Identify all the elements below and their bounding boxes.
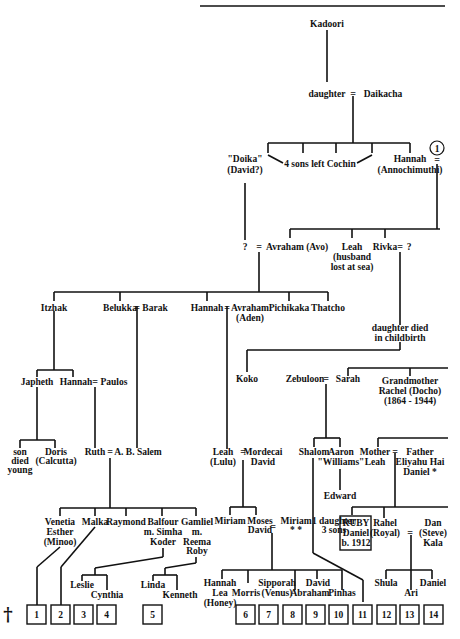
- svg-text:(Honey): (Honey): [204, 598, 237, 609]
- person-avraham-aden: Avraham: [231, 303, 269, 313]
- svg-text:2: 2: [58, 610, 63, 620]
- person-barak: Barak: [142, 303, 168, 313]
- person-kenneth: Kenneth: [163, 590, 199, 600]
- svg-text:lost at sea): lost at sea): [331, 262, 374, 273]
- svg-text:7: 7: [266, 610, 271, 620]
- person-doika-alias: (David?): [227, 165, 262, 176]
- four-sons-label: 4 sons left Cochin: [284, 159, 356, 169]
- svg-text:young: young: [8, 465, 33, 475]
- person-avraham-avo: Avraham (Avo): [266, 242, 328, 253]
- gen6: Venetia Esther (Minoo) Malka Raymond Bal…: [44, 516, 447, 556]
- person-hannah: Hannah: [191, 303, 224, 313]
- svg-text:=: =: [107, 446, 113, 457]
- marker-number: 1: [435, 144, 440, 154]
- svg-text:Lea: Lea: [212, 588, 228, 598]
- svg-text:(Calcutta): (Calcutta): [35, 456, 76, 467]
- svg-text:(Lulu): (Lulu): [210, 457, 236, 468]
- svg-text:=: =: [434, 154, 440, 165]
- svg-text:David: David: [251, 457, 276, 467]
- svg-text:=: =: [397, 241, 403, 252]
- person-dan-steve: Dan: [425, 518, 443, 528]
- person-raymond: Raymond: [106, 517, 146, 527]
- person-grandmother-rachel: Grandmother: [382, 376, 439, 386]
- svg-text:(Aden): (Aden): [236, 313, 264, 324]
- person-balfour: Balfour: [147, 517, 179, 527]
- svg-text:9: 9: [313, 610, 318, 620]
- person-daniel: Daniel: [420, 578, 447, 588]
- person-morris: Morris: [232, 588, 261, 598]
- svg-text:=: =: [407, 527, 413, 538]
- svg-text:12: 12: [382, 610, 392, 620]
- person-mother-leah: Mother: [360, 447, 391, 457]
- person-paulos: Paulos: [101, 377, 128, 387]
- person-venetia: Venetia: [45, 517, 76, 527]
- svg-text:(Minoo): (Minoo): [44, 537, 77, 548]
- svg-text:Daniel: Daniel: [343, 528, 370, 538]
- svg-text:in childbirth: in childbirth: [375, 333, 427, 343]
- gen4: Itzhak Belukka = Barak Hannah = Avraham …: [41, 302, 441, 407]
- person-malka: Malka: [82, 517, 109, 527]
- person-mordecai-david: Mordecai: [243, 447, 282, 457]
- svg-text:11: 11: [358, 610, 367, 620]
- svg-text:* *: * *: [290, 525, 302, 535]
- person-shula: Shula: [374, 578, 397, 588]
- person-leslie: Leslie: [70, 580, 94, 590]
- svg-text:m.: m.: [192, 527, 202, 537]
- svg-text:m. Simha: m. Simha: [144, 527, 183, 537]
- person-ruby-daniel: RUBY: [343, 518, 370, 528]
- svg-text:1: 1: [34, 610, 39, 620]
- svg-text:(1864 - 1944): (1864 - 1944): [384, 396, 436, 407]
- person-pinhas: Pinhas: [328, 588, 356, 598]
- svg-text:13: 13: [405, 610, 415, 620]
- person-ruth: Ruth: [85, 447, 106, 457]
- svg-text:8: 8: [290, 610, 295, 620]
- svg-text:5: 5: [150, 610, 155, 620]
- person-david: David: [306, 578, 331, 588]
- person-leah-lulu: Leah: [213, 447, 234, 457]
- svg-text:Esther: Esther: [47, 527, 75, 537]
- svg-text:Leah: Leah: [365, 457, 386, 467]
- gen1: daughter = Daikacha: [309, 88, 403, 99]
- svg-text:10: 10: [334, 610, 344, 620]
- person-rahel: Rahel: [373, 518, 397, 528]
- person-kadoori: Kadoori: [310, 19, 344, 29]
- svg-text:Kala: Kala: [423, 538, 443, 548]
- person-daikacha: Daikacha: [364, 89, 403, 99]
- person-ab-salem: A. B. Salem: [114, 447, 162, 457]
- svg-text:3: 3: [81, 610, 86, 620]
- person-father-eliyahu: Father: [406, 447, 434, 457]
- svg-text:(Royal): (Royal): [370, 528, 400, 539]
- person-gamliel: Gamliel: [181, 517, 214, 527]
- svg-text:6: 6: [243, 610, 248, 620]
- person-aaron-williams: Aaron: [328, 447, 354, 457]
- person-rivka-spouse: ?: [407, 242, 412, 252]
- person-japheth: Japheth: [21, 377, 54, 387]
- person-sipporah: Sipporah: [258, 578, 296, 588]
- svg-text:4: 4: [104, 610, 109, 620]
- svg-text:Daniel *: Daniel *: [403, 467, 437, 477]
- person-doika: "Doika": [228, 154, 263, 164]
- svg-text:=: =: [392, 446, 398, 457]
- person-leah: Leah: [342, 242, 363, 252]
- family-tree-diagram: Kadoori daughter = Daikacha "Doika" (Dav…: [0, 0, 460, 639]
- person-itzhak: Itzhak: [41, 303, 68, 313]
- person-rivka: Rivka: [373, 242, 398, 252]
- person-sarah: Sarah: [336, 374, 361, 384]
- svg-text:=: =: [323, 373, 329, 384]
- person-edward: Edward: [324, 491, 357, 501]
- svg-text:=: =: [134, 302, 140, 313]
- person-ari: Ari: [404, 588, 418, 598]
- person-daughter: daughter: [309, 89, 347, 99]
- person-hannah-annochimuthi: Hannah: [394, 154, 427, 164]
- svg-text:=: =: [270, 521, 276, 532]
- svg-text:Eliyahu Hai: Eliyahu Hai: [396, 457, 445, 467]
- svg-text:Koder: Koder: [150, 537, 177, 547]
- person-linda: Linda: [141, 580, 166, 590]
- svg-text:"Williams": "Williams": [318, 457, 365, 467]
- svg-text:14: 14: [429, 610, 439, 620]
- person-daughter-died: daughter died: [372, 323, 429, 333]
- person-cynthia: Cynthia: [91, 590, 124, 600]
- gen0: Kadoori: [310, 19, 344, 29]
- person-unknown: ?: [243, 242, 248, 252]
- person-abraham: Abraham: [290, 588, 329, 598]
